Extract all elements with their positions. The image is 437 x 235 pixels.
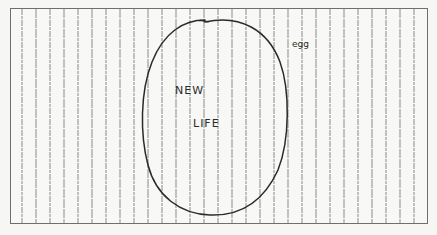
ruled-lines	[22, 9, 414, 223]
new-label: NEW	[175, 84, 204, 97]
life-label: LIFE	[193, 117, 220, 130]
egg-annotation: egg	[292, 39, 309, 49]
